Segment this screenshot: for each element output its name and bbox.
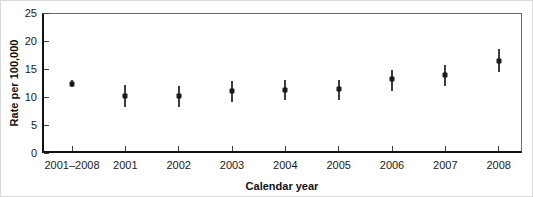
x-tick-mark <box>125 146 126 151</box>
x-tick-label: 2001–2008 <box>44 159 99 171</box>
x-tick-label: 2003 <box>220 159 244 171</box>
y-tick-label: 5 <box>11 119 37 131</box>
x-tick-label: 2004 <box>273 159 297 171</box>
x-tick-mark <box>232 146 233 151</box>
x-tick-label: 2005 <box>326 159 350 171</box>
y-tick-label: 25 <box>11 7 37 19</box>
data-point <box>176 94 181 99</box>
y-axis-title: Rate per 100,000 <box>8 40 20 127</box>
data-point <box>283 87 288 92</box>
x-tick-label: 2001 <box>113 159 137 171</box>
x-tick-label: 2007 <box>433 159 457 171</box>
x-tick-mark <box>445 146 446 151</box>
x-tick-label: 2002 <box>166 159 190 171</box>
x-tick-mark <box>392 146 393 151</box>
data-point <box>123 93 128 98</box>
x-tick-mark <box>285 146 286 151</box>
data-point <box>70 81 75 86</box>
y-tick-mark <box>44 41 49 42</box>
data-point <box>496 58 501 63</box>
y-tick-mark <box>44 69 49 70</box>
y-tick-mark <box>44 125 49 126</box>
y-tick-label: 20 <box>11 35 37 47</box>
data-point <box>443 73 448 78</box>
y-tick-label: 15 <box>11 63 37 75</box>
y-tick-mark <box>44 13 49 14</box>
x-tick-mark <box>338 146 339 151</box>
x-tick-mark <box>498 146 499 151</box>
x-tick-mark <box>178 146 179 151</box>
y-tick-label: 0 <box>11 147 37 159</box>
x-axis-title: Calendar year <box>246 180 319 192</box>
y-tick-mark <box>44 153 49 154</box>
data-point <box>336 87 341 92</box>
y-tick-mark <box>44 97 49 98</box>
x-tick-label: 2006 <box>380 159 404 171</box>
data-point <box>230 89 235 94</box>
x-tick-mark <box>72 146 73 151</box>
x-tick-label: 2008 <box>486 159 510 171</box>
y-tick-label: 10 <box>11 91 37 103</box>
rate-by-calendar-year-chart: Rate per 100,000 05101520252001–20082001… <box>0 0 533 197</box>
data-point <box>390 76 395 81</box>
plot-area <box>42 13 522 153</box>
